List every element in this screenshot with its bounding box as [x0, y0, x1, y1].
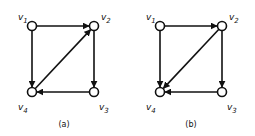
graph-caption: (b) — [185, 120, 196, 129]
edge-v4-to-v2 — [35, 30, 90, 89]
node-label-v2: v2 — [229, 12, 239, 25]
node-v3 — [218, 88, 227, 97]
node-label-v3: v3 — [227, 102, 237, 115]
node-v2 — [218, 22, 227, 31]
node-v1 — [28, 22, 37, 31]
node-label-v1: v1 — [146, 12, 156, 25]
node-v4 — [28, 88, 37, 97]
node-label-v2: v2 — [101, 12, 111, 25]
graph-caption: (a) — [58, 120, 69, 129]
node-label-v4: v4 — [18, 102, 28, 115]
node-v2 — [90, 22, 99, 31]
directed-graphs-diagram: v1v2v3v4(a)v1v2v3v4(b) — [0, 0, 255, 136]
node-label-v1: v1 — [18, 12, 28, 25]
node-v3 — [90, 88, 99, 97]
node-v4 — [156, 88, 165, 97]
graph-b: v1v2v3v4(b) — [146, 12, 239, 129]
graph-a: v1v2v3v4(a) — [18, 12, 111, 129]
node-v1 — [156, 22, 165, 31]
node-label-v4: v4 — [146, 102, 156, 115]
node-label-v3: v3 — [99, 102, 109, 115]
edge-v2-to-v4 — [163, 29, 218, 88]
